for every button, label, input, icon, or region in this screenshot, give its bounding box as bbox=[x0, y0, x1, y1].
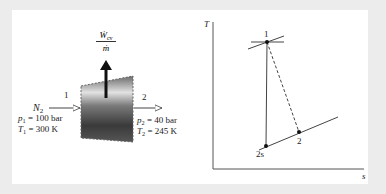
outlet-temperature-sub: 2 bbox=[142, 130, 145, 137]
outlet-temperature-label: T2 = 245 K bbox=[137, 127, 177, 136]
outlet-state-label: 2 bbox=[142, 93, 147, 102]
fraction-bar bbox=[96, 41, 116, 42]
outlet-pressure-value: = 40 bar bbox=[147, 115, 177, 125]
point-1-label: 1 bbox=[264, 30, 269, 39]
work-numerator: Ẇ bbox=[99, 30, 107, 40]
inlet-temperature-value: = 300 K bbox=[28, 124, 58, 134]
state-point-2-icon bbox=[297, 130, 301, 134]
ts-axes bbox=[213, 22, 364, 169]
work-denominator: ṁ bbox=[94, 43, 118, 53]
actual-process-line-icon bbox=[267, 42, 299, 132]
work-numerator-sub: cv bbox=[107, 35, 113, 41]
isentropic-line-icon bbox=[266, 42, 267, 146]
point-2s-label: 2s bbox=[256, 150, 264, 159]
y-axis-label: T bbox=[204, 20, 209, 29]
inlet-temperature-label: T1 = 300 K bbox=[18, 125, 58, 134]
diagram-graphics bbox=[0, 0, 386, 194]
point-2-label: 2 bbox=[297, 137, 302, 146]
work-rate-label: Ẇcv ṁ bbox=[94, 30, 118, 53]
outlet-pressure-label: p2 = 40 bar bbox=[137, 116, 177, 125]
outlet-pressure-sub: 2 bbox=[142, 119, 145, 126]
inlet-state-label: 1 bbox=[64, 91, 69, 100]
inlet-temperature-sub: 1 bbox=[23, 128, 26, 135]
inlet-pressure-sub: 1 bbox=[23, 117, 26, 124]
inlet-pressure-label: p1 = 100 bar bbox=[18, 114, 62, 123]
fluid-label: N2 bbox=[33, 103, 43, 113]
inlet-pressure-value: = 100 bar bbox=[28, 113, 63, 123]
state-point-2s-icon bbox=[264, 144, 268, 148]
x-axis-label: s bbox=[362, 172, 366, 181]
fluid-symbol: N bbox=[33, 102, 40, 113]
state-point-1-icon bbox=[265, 40, 269, 44]
outlet-temperature-value: = 245 K bbox=[147, 126, 177, 136]
